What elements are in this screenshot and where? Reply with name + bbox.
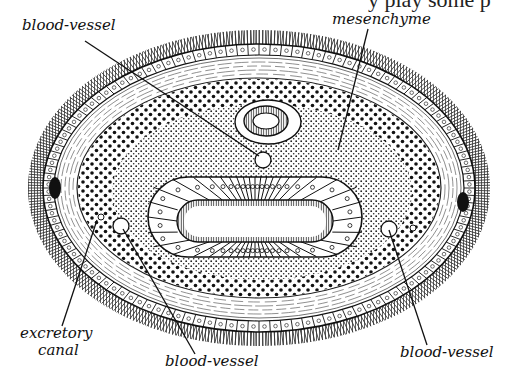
cross-section-figure — [0, 0, 524, 379]
excretory-canal-right — [410, 225, 416, 231]
label-mesenchyme: mesenchyme — [332, 12, 431, 27]
dorsal-nerve-cord — [235, 100, 301, 144]
label-blood-vessel-bottom-left: blood-vessel — [165, 354, 259, 369]
blood-vessel-right — [381, 221, 397, 237]
label-blood-vessel-bottom-right: blood-vessel — [400, 345, 494, 360]
blood-vessel-left — [113, 218, 129, 234]
label-excretory-canal-line1: excretory — [20, 326, 93, 341]
lateral-nerve-left — [49, 177, 61, 199]
gut — [148, 177, 362, 257]
label-blood-vessel-top: blood-vessel — [22, 18, 116, 33]
diagram-stage: y play some p blood-vessel mesenchyme ex… — [0, 0, 524, 379]
gut-lumen — [184, 206, 326, 237]
label-excretory-canal-line2: canal — [38, 343, 79, 358]
excretory-canal-left — [98, 214, 104, 220]
lateral-nerve-right — [457, 192, 469, 212]
